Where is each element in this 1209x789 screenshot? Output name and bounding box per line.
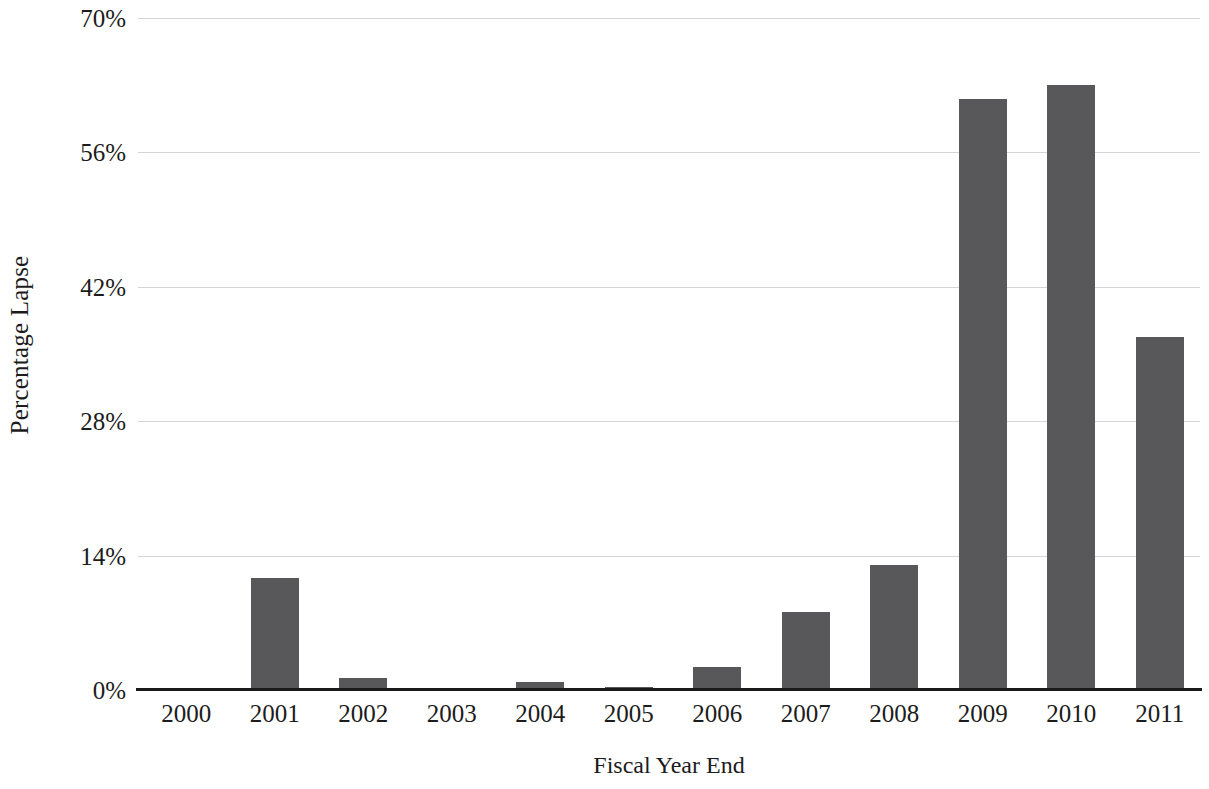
bar-2011	[1136, 337, 1184, 690]
x-tick-label-2000: 2000	[140, 700, 232, 728]
y-axis-title-text: Percentage Lapse	[6, 256, 34, 435]
y-tick-label: 56%	[38, 140, 126, 165]
y-tick-label: 0%	[38, 678, 126, 703]
x-tick-label-2009: 2009	[937, 700, 1029, 728]
y-axis-title: Percentage Lapse	[0, 0, 40, 690]
x-tick-label-2004: 2004	[494, 700, 586, 728]
x-tick-label-2008: 2008	[848, 700, 940, 728]
x-axis-title: Fiscal Year End	[138, 752, 1200, 779]
x-tick-label-2010: 2010	[1025, 700, 1117, 728]
x-tick-label-2007: 2007	[760, 700, 852, 728]
x-axis-tick-labels: 2000200120022003200420052006200720082009…	[138, 700, 1200, 736]
x-tick-label-2003: 2003	[406, 700, 498, 728]
y-tick-label: 28%	[38, 409, 126, 434]
x-tick-label-2001: 2001	[229, 700, 321, 728]
bar-2006	[693, 667, 741, 690]
bar-2001	[251, 578, 299, 690]
bar-2007	[782, 612, 830, 690]
y-axis-tick-labels: 0%14%28%42%56%70%	[38, 0, 126, 789]
x-tick-label-2002: 2002	[317, 700, 409, 728]
y-tick-label: 70%	[38, 6, 126, 31]
bars-layer	[138, 18, 1200, 690]
x-tick-label-2005: 2005	[583, 700, 675, 728]
bar-2010	[1047, 85, 1095, 690]
x-tick-label-2011: 2011	[1114, 700, 1206, 728]
x-tick-label-2006: 2006	[671, 700, 763, 728]
y-tick-label: 14%	[38, 543, 126, 568]
y-tick-label: 42%	[38, 274, 126, 299]
bar-2009	[959, 99, 1007, 690]
bar-2008	[870, 565, 918, 690]
bar-chart: Percentage Lapse 0%14%28%42%56%70% 20002…	[0, 0, 1209, 789]
x-axis-line	[136, 688, 1202, 691]
